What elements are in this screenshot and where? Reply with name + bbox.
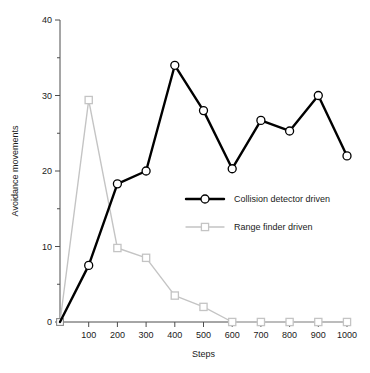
data-point-marker [171, 61, 179, 69]
data-point-marker [257, 318, 264, 325]
y-axis: 010203040Avoidance movements [10, 15, 60, 327]
x-tick-label: 700 [253, 330, 268, 340]
legend-item-0: Collision detector driven [186, 194, 330, 204]
data-point-marker [315, 318, 322, 325]
x-axis-title: Steps [192, 349, 216, 359]
data-point-marker [85, 96, 92, 103]
y-tick-label: 40 [42, 15, 52, 25]
x-tick-label: 500 [196, 330, 211, 340]
legend: Collision detector drivenRange finder dr… [186, 194, 330, 232]
chart-container: 010203040Avoidance movements100200300400… [0, 0, 370, 373]
data-point-marker [314, 92, 322, 100]
data-point-marker [200, 303, 207, 310]
x-tick-label: 300 [139, 330, 154, 340]
x-axis: 1002003004005006007008009001000Steps [60, 322, 357, 359]
legend-label: Collision detector driven [234, 194, 330, 204]
data-point-marker [229, 318, 236, 325]
legend-marker [201, 195, 209, 203]
data-point-marker [142, 167, 150, 175]
data-point-marker [228, 165, 236, 173]
line-chart: 010203040Avoidance movements100200300400… [0, 0, 370, 373]
legend-marker [201, 223, 208, 230]
legend-item-1: Range finder driven [186, 222, 313, 232]
x-tick-label: 200 [110, 330, 125, 340]
data-point-marker [286, 318, 293, 325]
series-0 [60, 61, 351, 322]
data-point-marker [85, 261, 93, 269]
y-tick-label: 30 [42, 91, 52, 101]
x-tick-label: 900 [311, 330, 326, 340]
data-point-marker [171, 292, 178, 299]
y-axis-title: Avoidance movements [10, 125, 20, 216]
data-point-marker [343, 152, 351, 160]
x-tick-label: 800 [282, 330, 297, 340]
series-1 [57, 96, 351, 325]
x-tick-label: 400 [167, 330, 182, 340]
x-tick-label: 1000 [337, 330, 357, 340]
y-tick-label: 0 [47, 317, 52, 327]
y-tick-label: 10 [42, 242, 52, 252]
data-point-marker [343, 318, 350, 325]
data-point-marker [114, 244, 121, 251]
series-line [60, 100, 347, 322]
data-point-marker [257, 116, 265, 124]
y-tick-label: 20 [42, 166, 52, 176]
data-point-marker [286, 127, 294, 135]
x-tick-label: 100 [81, 330, 96, 340]
data-point-marker [200, 107, 208, 115]
x-tick-label: 600 [225, 330, 240, 340]
data-point-marker [113, 180, 121, 188]
data-point-marker [143, 254, 150, 261]
legend-label: Range finder driven [234, 222, 313, 232]
